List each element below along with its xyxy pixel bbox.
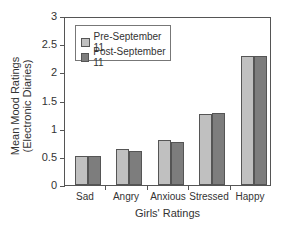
legend-swatch-post — [81, 53, 89, 62]
y-tick-label: 1.5 — [42, 96, 57, 107]
y-tick-label: 0 — [51, 180, 57, 191]
bar-angry-post — [129, 151, 142, 185]
bar-stressed-pre — [199, 114, 212, 185]
legend: Pre-September 11 Post-September 11 — [75, 25, 171, 61]
bar-sad-pre — [75, 156, 88, 185]
x-tick — [188, 186, 189, 190]
bar-angry-pre — [116, 149, 129, 185]
bar-stressed-post — [212, 113, 225, 185]
bar-anxious-post — [171, 142, 184, 185]
y-tick-label: 1 — [51, 124, 57, 135]
y-tick-label: 0.5 — [42, 152, 57, 163]
y-tick-label: 3 — [51, 11, 57, 22]
y-tick-label: 2.5 — [42, 39, 57, 50]
x-axis-title: Girls' Ratings — [64, 207, 271, 219]
bar-anxious-pre — [158, 140, 171, 185]
legend-item-post: Post-September 11 — [81, 46, 170, 68]
y-tick — [60, 186, 65, 187]
x-tick — [147, 186, 148, 190]
y-tick-label: 2 — [51, 67, 57, 78]
y-axis-title: Mean Mood Ratings (Electronic Diaries) — [9, 41, 33, 171]
x-tick — [230, 186, 231, 190]
x-tick — [105, 186, 106, 190]
bar-happy-post — [254, 56, 267, 185]
bar-happy-pre — [241, 56, 254, 185]
bar-sad-post — [88, 156, 101, 185]
x-tick-label: Happy — [225, 191, 275, 202]
